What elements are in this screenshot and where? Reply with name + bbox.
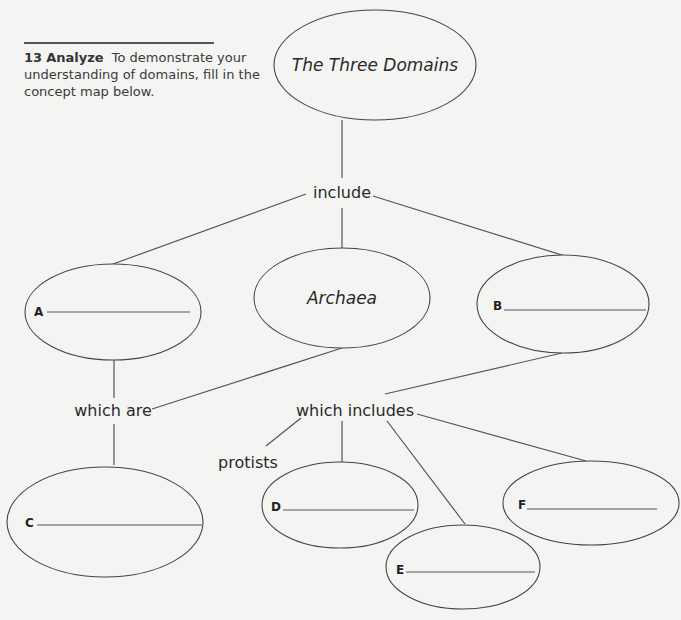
node-b: [477, 255, 649, 353]
blank-f-letter: F: [518, 498, 526, 512]
blank-d-letter: D: [271, 500, 281, 514]
node-f: [503, 461, 679, 545]
link-which-includes: which includes: [296, 401, 414, 420]
protists-label: protists: [218, 453, 278, 472]
link-include: include: [313, 183, 371, 202]
connector-archaea-whichare: [152, 348, 342, 409]
blank-c-letter: C: [25, 516, 34, 530]
connector-include-b: [373, 196, 568, 257]
link-which-are: which are: [74, 401, 152, 420]
node-e: [386, 525, 540, 609]
blank-e-letter: E: [396, 563, 404, 577]
blank-a-letter: A: [34, 305, 44, 319]
connector-whichincludes-protists: [266, 418, 301, 446]
connector-whichincludes-f: [417, 414, 586, 461]
node-c: [7, 467, 203, 577]
connector-b-whichincludes: [385, 353, 562, 394]
connector-include-a: [113, 194, 306, 264]
blank-b-letter: B: [493, 299, 502, 313]
root-title: The Three Domains: [292, 55, 458, 75]
concept-map: The Three Domains include Archaea which …: [0, 0, 681, 620]
archaea-title: Archaea: [306, 288, 377, 308]
node-d: [262, 462, 418, 548]
